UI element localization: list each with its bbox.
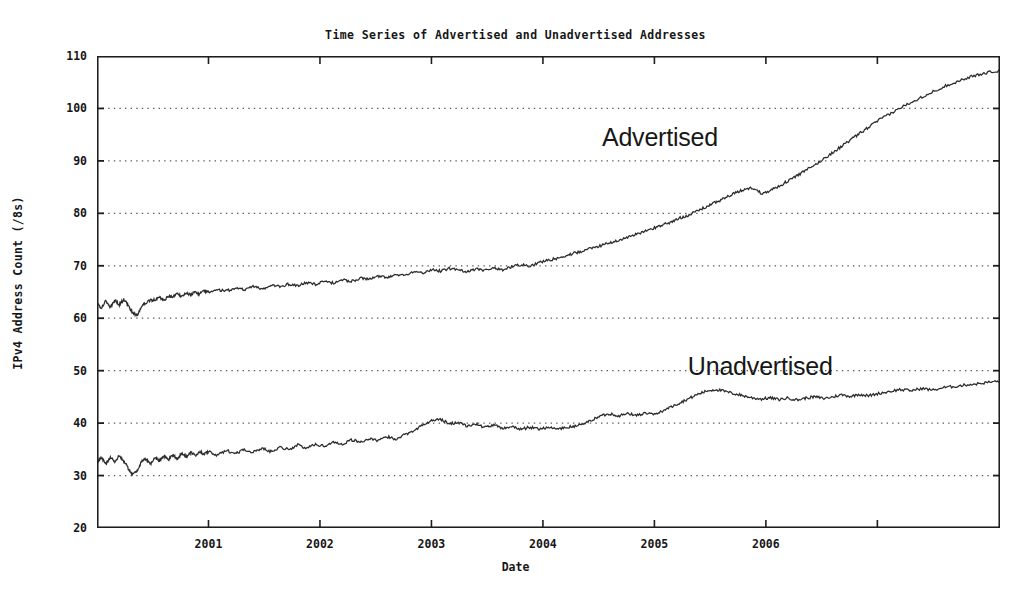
chart-figure: Time Series of Advertised and Unadvertis… (0, 0, 1031, 602)
x-axis-label: Date (0, 560, 1031, 574)
series-line-advertised (97, 70, 1000, 315)
x-tick-label: 2005 (641, 537, 669, 551)
y-axis-label: IPv4 Address Count (/8s) (11, 43, 25, 523)
plot-border (98, 57, 1000, 528)
plot-canvas (97, 56, 1000, 528)
x-tick-label: 2002 (306, 537, 334, 551)
x-tick-label: 2003 (418, 537, 446, 551)
series-line-unadvertised (97, 381, 1000, 475)
series-label-advertised: Advertised (602, 123, 718, 152)
chart-title: Time Series of Advertised and Unadvertis… (0, 28, 1031, 42)
x-tick-label: 2006 (752, 537, 780, 551)
y-tick-label: 80 (41, 206, 87, 220)
y-tick-label: 70 (41, 259, 87, 273)
y-tick-label: 20 (41, 521, 87, 535)
y-tick-label: 60 (41, 311, 87, 325)
data-series-group (97, 70, 1000, 475)
y-tick-label: 30 (41, 469, 87, 483)
y-tick-label: 110 (41, 49, 87, 63)
x-tick-label: 2001 (195, 537, 223, 551)
y-tick-label: 50 (41, 364, 87, 378)
x-tick-label: 2004 (529, 537, 557, 551)
axis-frame (98, 57, 1000, 528)
y-tick-label: 40 (41, 416, 87, 430)
gridlines (97, 108, 1000, 475)
series-label-unadvertised: Unadvertised (688, 352, 833, 381)
y-tick-label: 90 (41, 154, 87, 168)
axis-ticks (97, 56, 1000, 528)
y-tick-label: 100 (41, 101, 87, 115)
plot-area: 2030405060708090100110 20012002200320042… (97, 56, 1000, 528)
